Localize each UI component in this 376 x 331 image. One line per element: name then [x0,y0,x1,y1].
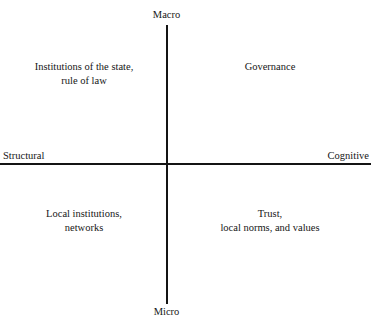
quadrant-bottom-left-text: Local institutions, networks [2,207,166,234]
quadrant-top-left-text: Institutions of the state, rule of law [2,60,166,87]
quadrant-top-right-text: Governance [170,60,370,74]
axis-label-cognitive: Cognitive [328,149,369,162]
horizontal-axis-line [0,163,371,165]
axis-label-structural: Structural [3,149,44,162]
axis-label-macro: Macro [0,8,333,21]
quadrant-diagram: Macro Micro Structural Cognitive Institu… [0,0,376,331]
axis-label-micro: Micro [0,305,333,318]
quadrant-bottom-right-text: Trust, local norms, and values [170,207,370,234]
